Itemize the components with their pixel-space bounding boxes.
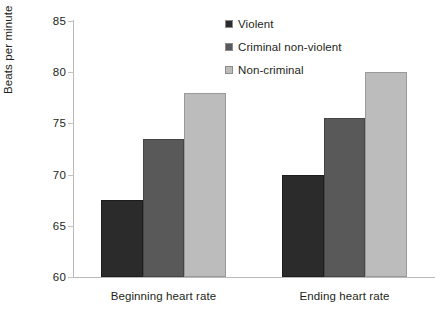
y-axis-tick-label: 70 (20, 169, 66, 181)
bar-criminal-non-violent-ending-heart-rate (324, 118, 366, 277)
bar-chart: Beats per minute 606570758085 Beginning … (0, 0, 443, 323)
y-axis-tick-label: 60 (20, 271, 66, 283)
legend-item-criminal-non-violent: Criminal non-violent (225, 37, 385, 57)
bar-violent-ending-heart-rate (282, 175, 324, 277)
legend-label: Criminal non-violent (238, 41, 342, 53)
legend-label: Non-criminal (238, 64, 304, 76)
legend: ViolentCriminal non-violentNon-criminal (225, 14, 385, 83)
legend-swatch-icon (225, 43, 233, 51)
y-axis-tick-label: 75 (20, 117, 66, 129)
x-axis-category-label: Ending heart rate (255, 290, 435, 302)
y-axis-tick-label: 80 (20, 66, 66, 78)
legend-swatch-icon (225, 66, 233, 74)
bar-non-criminal-ending-heart-rate (365, 72, 407, 277)
y-axis-tick-label: 65 (20, 220, 66, 232)
bar-non-criminal-beginning-heart-rate (184, 93, 226, 277)
legend-label: Violent (238, 18, 274, 30)
x-axis-category-label: Beginning heart rate (74, 290, 254, 302)
legend-item-non-criminal: Non-criminal (225, 60, 385, 80)
y-axis-tick-label: 85 (20, 15, 66, 27)
y-axis-tick (68, 277, 74, 278)
bar-criminal-non-violent-beginning-heart-rate (143, 139, 185, 277)
legend-item-violent: Violent (225, 14, 385, 34)
y-axis-title: Beats per minute (2, 0, 14, 94)
bar-violent-beginning-heart-rate (101, 200, 143, 277)
x-axis-line (73, 277, 435, 278)
legend-swatch-icon (225, 20, 233, 28)
